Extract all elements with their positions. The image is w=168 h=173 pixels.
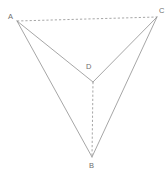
edge-c-b	[92, 17, 157, 157]
edge-d-b-hidden	[92, 82, 93, 157]
vertex-label-c: C	[159, 7, 164, 15]
edge-a-d	[17, 21, 93, 82]
edge-a-b	[17, 21, 92, 157]
vertex-label-b: B	[89, 162, 94, 170]
vertex-label-a: A	[8, 13, 13, 21]
geometry-figure: A C B D	[0, 0, 168, 173]
vertex-label-d: D	[86, 63, 91, 71]
edge-a-c-hidden	[17, 17, 157, 21]
figure-canvas	[0, 0, 168, 173]
edge-group-solid	[17, 17, 157, 157]
edge-c-d	[93, 17, 157, 82]
